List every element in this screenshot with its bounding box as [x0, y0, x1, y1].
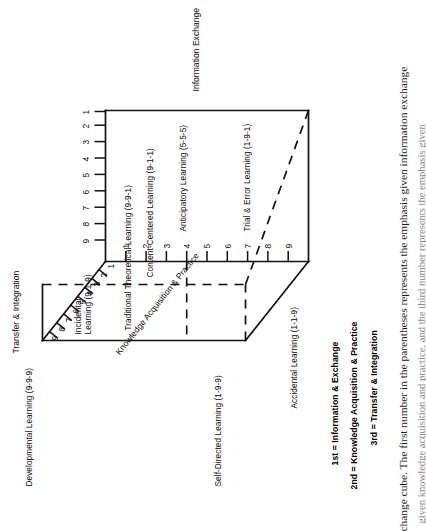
tick-knowledge-7: 7: [63, 317, 73, 322]
tick-knowledge-3: 3: [91, 281, 101, 286]
tick-transfer-5: 5: [201, 243, 211, 248]
legend-item-2nd: 2nd = Knowledge Acquisition & Practice: [348, 321, 358, 489]
caption-line-1: change cube. The first number in the par…: [396, 66, 408, 531]
tick-information-4: 4: [80, 156, 90, 161]
tick-knowledge-2: 2: [98, 272, 108, 277]
vertex-label-developmental-learning: Developmental Learning (9-9-9): [24, 367, 34, 486]
caption-line-2: given knowledge acquisition and practice…: [415, 124, 426, 523]
tick-information-7: 7: [80, 205, 90, 210]
tick-knowledge-1: 1: [105, 263, 115, 268]
legend-item-1st: 1st = Information & Exchange: [329, 341, 339, 465]
vertex-label-trial-and-error-learning: Trial & Error Learning (1-9-1): [242, 123, 252, 231]
vertex-label-accidental-learning: Accidental Learning (1-1-9): [289, 307, 299, 408]
tick-transfer-2: 2: [140, 243, 150, 248]
tick-knowledge-4: 4: [84, 290, 94, 295]
tick-transfer-7: 7: [242, 243, 252, 248]
tick-information-8: 8: [80, 221, 90, 226]
tick-information-9: 9: [80, 238, 90, 243]
vertex-label-anticipatory-learning: Anticipatory Learning (5-5-5): [178, 124, 188, 231]
tick-information-2: 2: [80, 123, 90, 128]
tick-transfer-6: 6: [222, 243, 232, 248]
tick-knowledge-5: 5: [77, 299, 87, 304]
vertex-label-traditional-theoretical-learning: Traditional Theoretical Learning (9-9-1): [123, 184, 133, 330]
axis-title-information-exchange: Information Exchange: [190, 7, 200, 91]
tick-knowledge-8: 8: [56, 326, 66, 331]
tick-transfer-4: 4: [181, 243, 191, 248]
tick-knowledge-6: 6: [70, 308, 80, 313]
vertex-label-content-centered-learning: Content-Centered Learning (9-1-1): [145, 148, 155, 277]
tick-information-6: 6: [80, 189, 90, 194]
tick-information-1: 1: [80, 109, 90, 114]
tick-transfer-3: 3: [161, 243, 171, 248]
legend-item-3rd: 3rd = Transfer & Integration: [368, 330, 378, 445]
tick-transfer-1: 1: [120, 243, 130, 248]
tick-information-5: 5: [80, 172, 90, 177]
axis-title-transfer-integration: Transfer & Integration: [10, 270, 20, 353]
tick-information-3: 3: [80, 139, 90, 144]
tick-transfer-8: 8: [262, 243, 272, 248]
cube-hidden-edge-bottom-slant: [245, 110, 308, 284]
vertex-label-self-directed-learning: Self-Directed Learning (1-9-9): [213, 375, 223, 486]
tick-knowledge-9: 9: [49, 335, 59, 340]
tick-transfer-9: 9: [283, 243, 293, 248]
